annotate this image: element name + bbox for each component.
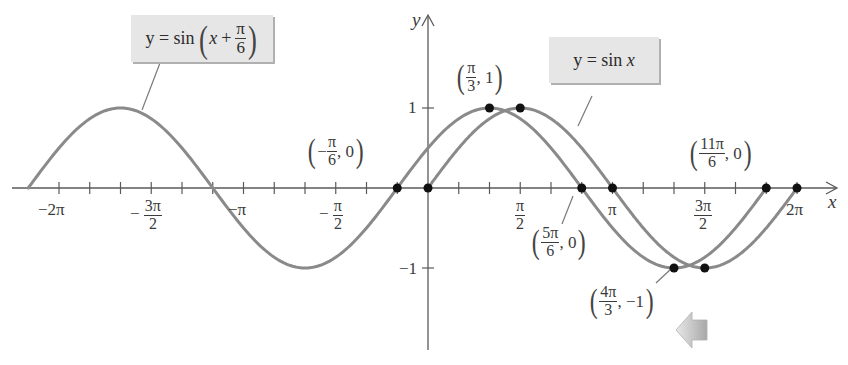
axes bbox=[12, 15, 837, 350]
data-point bbox=[424, 184, 433, 193]
callout-base-var: x bbox=[627, 50, 635, 71]
x-tick-pi-2: π2 bbox=[515, 198, 525, 233]
x-tick-2pi: 2π bbox=[786, 201, 803, 218]
callout-base-text: y = sin bbox=[573, 50, 622, 71]
x-tick-neg-3pi-2: − 3π2 bbox=[130, 198, 162, 233]
x-tick-neg-pi: −π bbox=[228, 201, 246, 218]
x-tick-neg-pi-2: − π2 bbox=[319, 198, 343, 233]
y-tick-neg1: −1 bbox=[399, 260, 417, 277]
x-tick-3pi-2: 3π2 bbox=[694, 198, 712, 233]
data-point bbox=[762, 184, 771, 193]
point-label-5pi-6: ( 5π6 , 0 ) bbox=[530, 225, 588, 260]
callout-shifted-function: y = sin ( x + π6 ) bbox=[131, 15, 273, 62]
data-point bbox=[608, 184, 617, 193]
shift-left-arrow-icon bbox=[676, 312, 707, 348]
callout-shifted-plus: + bbox=[221, 28, 231, 49]
data-point bbox=[793, 184, 802, 193]
point-label-neg-pi-6: ( − π6 , 0 ) bbox=[306, 134, 365, 169]
callout-shifted-prefix: y = sin bbox=[145, 28, 194, 49]
callout-shifted-den: 6 bbox=[236, 39, 245, 57]
point-label-pi-3: ( π3 , 1 ) bbox=[455, 60, 505, 95]
data-point bbox=[700, 264, 709, 273]
data-point bbox=[577, 184, 586, 193]
y-axis-label: y bbox=[412, 10, 420, 29]
x-tick-neg-2pi: −2π bbox=[38, 201, 65, 218]
data-point bbox=[670, 264, 679, 273]
point-label-4pi-3: ( 4π3 , −1 ) bbox=[588, 284, 655, 319]
point-label-11pi-6: ( 11π6 , 0 ) bbox=[688, 136, 753, 171]
data-point bbox=[516, 104, 525, 113]
callout-base-function: y = sin x bbox=[549, 37, 659, 83]
callout-shifted-var: x bbox=[209, 28, 217, 49]
x-tick-pi: π bbox=[608, 201, 617, 218]
y-tick-1: 1 bbox=[408, 99, 417, 116]
data-point bbox=[485, 104, 494, 113]
data-point bbox=[393, 184, 402, 193]
x-axis-label: x bbox=[828, 192, 836, 211]
callout-shifted-num: π bbox=[235, 20, 246, 39]
sine-plot bbox=[0, 0, 848, 365]
